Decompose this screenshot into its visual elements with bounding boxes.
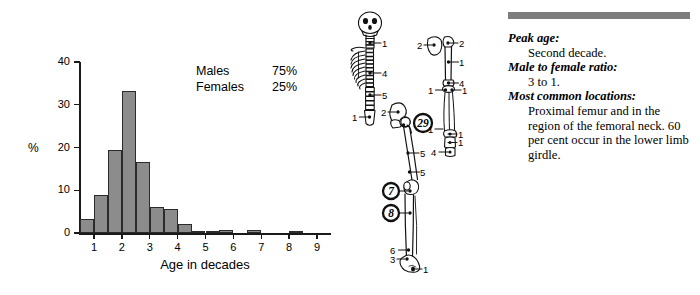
histogram-bar	[192, 231, 206, 233]
fact-value: Proximal femur and in the region of the …	[508, 104, 694, 162]
legend-row: Males75%	[196, 64, 297, 80]
annot-hand-phalanges: 4	[431, 147, 436, 158]
x-tick-mark	[149, 233, 150, 239]
annot-proximal-femur: 29	[416, 117, 429, 129]
annot-sacrum: 1	[352, 112, 357, 123]
histogram-bar	[136, 162, 150, 233]
x-tick-label: 4	[168, 242, 188, 253]
x-tick-mark	[93, 233, 94, 239]
fact-value: Second decade.	[508, 46, 694, 61]
annot-pelvis-ilium: 2	[381, 107, 386, 118]
histogram-bar	[122, 91, 136, 233]
x-tick-label: 6	[223, 242, 243, 253]
histogram-bar	[80, 219, 94, 233]
fact-value: 3 to 1.	[508, 75, 694, 90]
fact-block: Male to female ratio:3 to 1.	[508, 60, 694, 89]
summary-text-panel: Peak age:Second decade.Male to female ra…	[508, 12, 694, 162]
x-tick-mark	[288, 233, 289, 239]
annot-metacarpal: 1	[458, 137, 463, 148]
x-tick-label: 8	[279, 242, 299, 253]
x-axis-title: Age in decades	[79, 258, 331, 271]
fact-label: Most common locations:	[508, 89, 636, 103]
figure-root: 010203040 123456789 % Age in decades Mal…	[0, 0, 700, 295]
histogram-bar	[219, 230, 233, 233]
axial-skeleton-group	[351, 12, 382, 125]
y-tick-mark	[74, 147, 80, 148]
y-axis-title: %	[28, 142, 39, 154]
fact-label: Peak age:	[508, 31, 559, 45]
histogram-bar	[178, 224, 192, 233]
fact-block: Peak age:Second decade.	[508, 31, 694, 60]
x-tick-label: 3	[140, 242, 160, 253]
y-tick-label: 30	[44, 99, 70, 110]
legend-value: 75%	[272, 64, 297, 80]
annot-cervical-spine: 1	[382, 38, 387, 49]
upper-limb-group	[427, 37, 456, 157]
legend-key: Females	[196, 80, 272, 96]
x-tick-label: 1	[84, 242, 104, 253]
y-tick-label: 10	[44, 184, 70, 195]
histogram-bar	[164, 209, 178, 233]
age-distribution-histogram: 010203040 123456789 % Age in decades Mal…	[0, 0, 350, 295]
annot-proximal-ulna: 1	[462, 85, 467, 96]
annot-lumbar-spine: 5	[382, 90, 387, 101]
x-tick-mark	[233, 233, 234, 239]
annot-proximal-tibia: 8	[388, 207, 394, 219]
annot-humeral-head: 2	[459, 38, 464, 49]
histogram-bar	[247, 230, 261, 233]
panel-rule-bar	[508, 12, 690, 19]
legend-row: Females25%	[196, 80, 297, 96]
legend-value: 25%	[272, 80, 297, 96]
annot-distal-radius: 1	[428, 124, 433, 135]
y-tick-label: 40	[44, 56, 70, 67]
annot-proximal-radius: 1	[428, 85, 433, 96]
y-tick-mark	[74, 104, 80, 105]
annot-scapula: 2	[417, 40, 422, 51]
x-tick-label: 5	[196, 242, 216, 253]
fact-block: Most common locations:Proximal femur and…	[508, 89, 694, 162]
skeleton-lesion-distribution-diagram: 1 4 5 1 2 2 1 4 1 1 2 1 1 1 4 5 5 6 3 1	[345, 5, 495, 295]
histogram-bar	[94, 195, 108, 233]
x-tick-mark	[177, 233, 178, 239]
y-tick-label: 20	[44, 142, 70, 153]
annot-femur-shaft-lower: 5	[420, 167, 425, 178]
legend-table: Males75%Females25%	[196, 64, 297, 95]
x-tick-mark	[261, 233, 262, 239]
fact-label: Male to female ratio:	[508, 60, 617, 74]
y-tick-mark	[74, 61, 80, 62]
histogram-bar	[150, 207, 164, 233]
legend-key: Males	[196, 64, 272, 80]
x-tick-label: 2	[112, 242, 132, 253]
x-tick-mark	[316, 233, 317, 239]
annot-humerus-shaft: 1	[459, 57, 464, 68]
annot-foot-tarsus: 1	[423, 264, 428, 275]
x-tick-mark	[205, 233, 206, 239]
x-tick-label: 9	[307, 242, 327, 253]
skeleton-svg: 1 4 5 1 2 2 1 4 1 1 2 1 1 1 4 5 5 6 3 1	[345, 5, 495, 295]
panel-facts-list: Peak age:Second decade.Male to female ra…	[508, 31, 694, 162]
annot-femur-shaft-upper: 5	[420, 148, 425, 159]
sex-distribution-legend: Males75%Females25%	[196, 64, 297, 95]
y-tick-mark	[74, 190, 80, 191]
lesion-dots	[368, 41, 454, 260]
x-tick-label: 7	[251, 242, 271, 253]
histogram-bar	[289, 231, 303, 233]
histogram-bar	[206, 231, 220, 233]
annot-thoracic-spine: 4	[382, 68, 387, 79]
x-tick-mark	[121, 233, 122, 239]
annot-distal-fibula: 3	[390, 254, 395, 265]
histogram-bar	[108, 150, 122, 233]
y-tick-label: 0	[44, 227, 70, 238]
